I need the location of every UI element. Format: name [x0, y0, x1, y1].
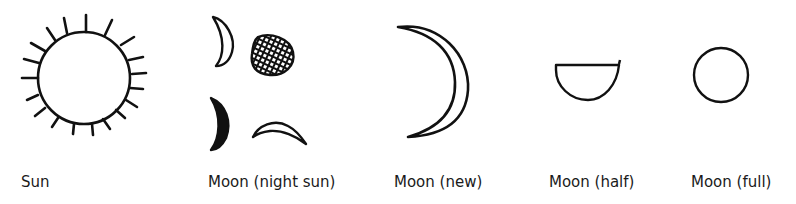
crescent-outline-icon — [213, 17, 233, 66]
new-moon-crescent-icon — [398, 26, 468, 137]
label-moon-full: Moon (full) — [691, 172, 771, 192]
label-moon-night-sun: Moon (night sun) — [208, 172, 335, 192]
label-moon-new: Moon (new) — [394, 172, 482, 192]
horizontal-crescent-icon — [253, 123, 306, 144]
label-moon-half: Moon (half) — [549, 172, 634, 192]
sun-moon-symbols-figure: Sun Moon (night sun) Moon (new) Moon (ha… — [0, 0, 796, 204]
sun-icon — [22, 15, 146, 135]
filled-crescent-icon — [211, 98, 228, 150]
full-moon-icon — [694, 48, 748, 102]
half-moon-icon — [556, 60, 620, 100]
night-sun-icon — [211, 17, 306, 150]
label-sun: Sun — [21, 172, 50, 192]
hatched-disc-icon — [252, 35, 294, 75]
